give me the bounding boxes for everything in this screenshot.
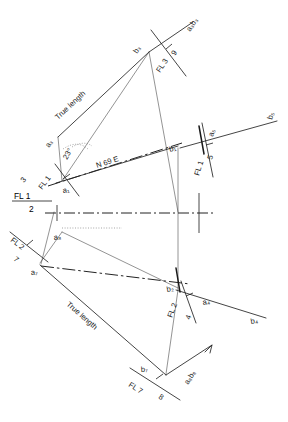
label-fold-line-1-2-lower: 2: [29, 204, 34, 214]
label-fold-line-1-3-lower: 3: [18, 175, 28, 184]
line-a5-b5: [180, 121, 277, 148]
label-a7: a₇: [31, 268, 39, 277]
label-fold-line-2-4-upper: FL 2: [165, 302, 179, 319]
label-b5: b₅: [265, 111, 276, 121]
label-fold-line-3-9-upper: FL 3: [154, 57, 170, 74]
true-length-line-lower: [40, 265, 166, 375]
label-b4: b₄: [250, 316, 259, 326]
label-a5: a₅: [206, 128, 217, 138]
segment-a8-b2: [62, 232, 178, 288]
label-fold-line-1-2-upper: FL 1: [14, 191, 31, 201]
angle-arc-23: [72, 143, 92, 147]
segment-a1-a3: [58, 137, 62, 181]
fold-line-2-7-tick: [27, 240, 33, 245]
label-a3: a₃: [43, 138, 55, 149]
label-a3b3: a₃b₃: [184, 16, 200, 33]
label-fold-line-7-8-upper: FL 7: [127, 380, 144, 396]
label-true-length-upper: True length: [53, 89, 87, 122]
label-fold-line-1-5-lower: 5: [205, 154, 215, 161]
true-length-line-upper: [58, 52, 149, 137]
label-b3: b₃: [131, 44, 143, 55]
label-b7: b₇: [141, 365, 149, 374]
label-fold-line-2-7-lower: 7: [12, 254, 21, 264]
label-fold-line-1-5-upper: FL 1: [192, 160, 205, 177]
fold-line-7-8-tick: [156, 374, 163, 379]
fold-line-1-5-tick: [206, 143, 213, 145]
lower-chain-line: [41, 266, 190, 284]
label-fold-line-7-8-lower: 8: [157, 392, 165, 402]
projector-fl2-up: [41, 212, 54, 264]
label-a1: a₁: [62, 185, 70, 195]
fold-line-3-9-tick: [166, 44, 172, 49]
drawing-canvas: a₃b₃ b₃ FL 3 9 True length a₃ 23° N 69 E…: [0, 0, 288, 422]
label-a8b8: a₈b₈: [182, 369, 198, 386]
label-fold-line-2-4-lower: 4: [183, 314, 193, 321]
label-a4: a₄: [202, 297, 211, 307]
label-fold-line-1-3-upper: FL 1: [36, 174, 52, 191]
segment-a1-b1: [56, 146, 178, 183]
engineering-drawing: a₃b₃ b₃ FL 3 9 True length a₃ 23° N 69 E…: [0, 0, 288, 422]
label-fold-line-2-7-upper: FL 2: [9, 235, 26, 251]
label-true-length-lower: True length: [65, 300, 100, 332]
projector-b3-b1: [149, 52, 178, 212]
label-a8: a₈: [53, 232, 62, 242]
